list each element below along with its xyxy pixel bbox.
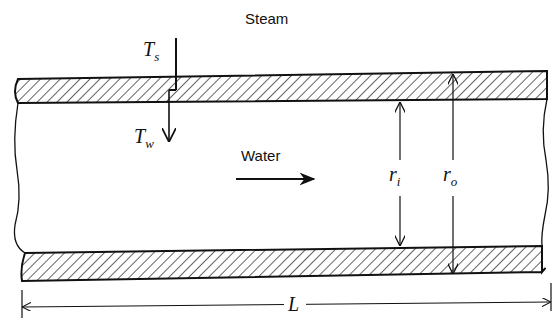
left-break-line [14,103,25,253]
right-break-line [542,99,548,246]
steam-label: Steam [245,10,288,27]
bottom-pipe-wall [21,246,545,281]
water-label: Water [241,147,280,164]
pipe-diagram: Steam Ts Tw Water ri ro L [0,0,552,330]
ts-label: Ts [143,38,159,64]
temperature-probe [169,38,176,142]
length-label: L [287,293,299,315]
top-pipe-wall [15,71,547,103]
tw-label: Tw [134,125,154,151]
